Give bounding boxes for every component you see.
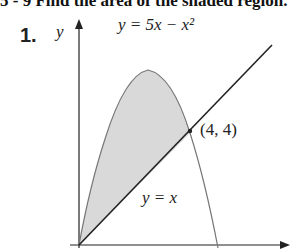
x-axis-arrow-icon (280, 241, 290, 249)
parabola-label: y = 5x − x² (118, 15, 194, 35)
point-label: (4, 4) (200, 120, 237, 140)
y-axis-label: y (56, 22, 64, 42)
shaded-region (79, 70, 190, 245)
line-label: y = x (142, 188, 177, 208)
intersection-point (188, 129, 192, 133)
y-axis-arrow-icon (75, 19, 83, 29)
area-graph (0, 0, 290, 250)
